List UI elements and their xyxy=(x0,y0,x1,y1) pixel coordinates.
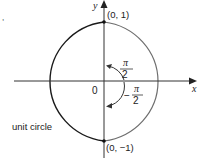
stray-mark: , xyxy=(2,13,4,22)
unit-circle-label: unit circle xyxy=(12,121,52,132)
unit-circle-diagram: , x y 0 (0, 1) (0, −1) π 2 − π 2 xyxy=(0,0,210,166)
angle-arrow-lower-icon xyxy=(106,103,112,109)
point-top-label: (0, 1) xyxy=(107,9,129,20)
angle-lower-denominator: 2 xyxy=(133,95,139,106)
point-bottom-label: (0, −1) xyxy=(106,142,134,153)
y-axis-label: y xyxy=(92,0,98,11)
angle-upper-denominator: 2 xyxy=(122,69,128,80)
y-axis-arrow-icon xyxy=(101,0,108,8)
x-axis-label: x xyxy=(191,83,197,94)
angle-lower-sign: − xyxy=(124,90,130,101)
angle-upper-numerator: π xyxy=(123,57,129,68)
angle-lower-numerator: π xyxy=(134,83,140,94)
angle-arc-lower xyxy=(108,82,124,106)
origin-label: 0 xyxy=(92,85,98,96)
point-top xyxy=(102,20,106,24)
